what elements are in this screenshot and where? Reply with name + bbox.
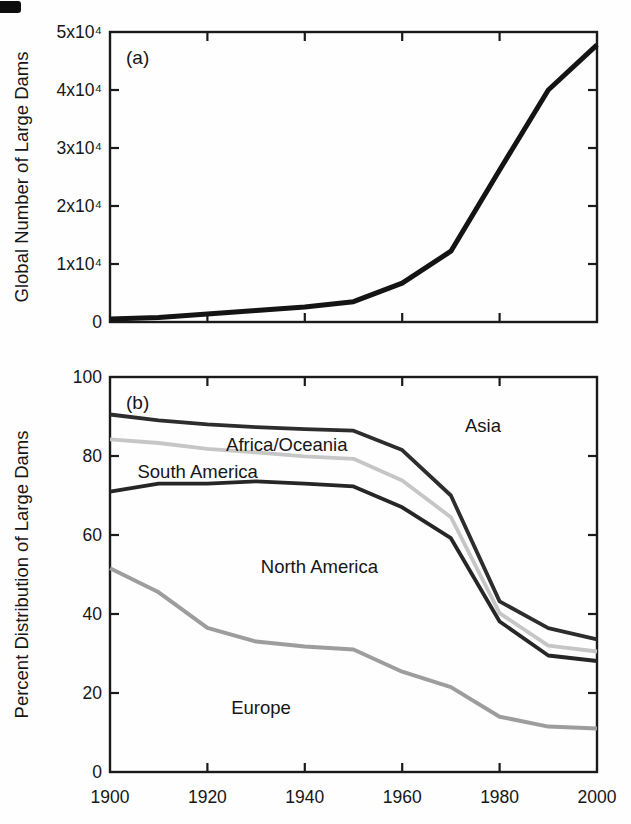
figure-canvas: 01x10⁴2x10⁴3x10⁴4x10⁴5x10⁴Global Number … [0,0,631,824]
annotation-south-america: South America [137,461,258,482]
y-axis-tick-label: 2x10⁴ [57,196,102,216]
data-line-europe-upper-boundary [110,568,597,728]
plot-box-a [110,32,597,322]
data-line-global-number-of-large-dams [110,45,597,319]
x-axis-tick-label: 1980 [480,787,519,807]
annotation-africa-oceania: Africa/Oceania [226,434,348,455]
y-axis-tick-label: 100 [73,367,102,387]
panel-b: 020406080100190019201940196019802000Perc… [11,367,617,807]
y-axis-tick-label: 40 [83,604,103,624]
y-axis-tick-label: 0 [92,762,102,782]
panel-a: 01x10⁴2x10⁴3x10⁴4x10⁴5x10⁴Global Number … [11,22,597,332]
x-axis-tick-label: 2000 [578,787,617,807]
annotation-asia: Asia [465,415,502,436]
y-axis-tick-label: 3x10⁴ [57,138,102,158]
y-axis-tick-label: 5x10⁴ [57,22,102,42]
y-axis-tick-label: 80 [83,446,103,466]
x-axis-tick-label: 1920 [188,787,227,807]
x-axis-tick-label: 1940 [285,787,324,807]
y-axis-tick-label: 20 [83,683,103,703]
y-axis-label-a: Global Number of Large Dams [11,52,32,303]
y-axis-tick-label: 4x10⁴ [57,80,102,100]
panel-label-a: (a) [126,47,149,68]
data-line-asia-upper-boundary [110,415,597,640]
y-axis-tick-label: 0 [92,312,102,332]
y-axis-tick-label: 1x10⁴ [57,254,102,274]
annotation-north-america: North America [261,556,379,577]
y-axis-label-b: Percent Distribution of Large Dams [11,431,32,719]
panel-label-b: (b) [126,392,149,413]
annotation-europe: Europe [231,697,291,718]
scan-artifact-mark [0,1,21,13]
dams-figure: 01x10⁴2x10⁴3x10⁴4x10⁴5x10⁴Global Number … [0,0,631,824]
x-axis-tick-label: 1900 [91,787,130,807]
x-axis-tick-label: 1960 [383,787,422,807]
y-axis-tick-label: 60 [83,525,103,545]
